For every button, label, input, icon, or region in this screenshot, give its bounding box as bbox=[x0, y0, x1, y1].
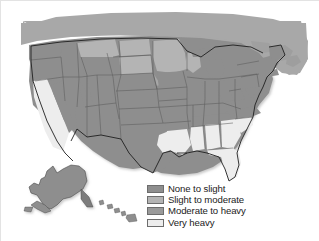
legend-label-moderate-to-heavy: Moderate to heavy bbox=[168, 206, 246, 216]
legend-item-slight-to-moderate[interactable]: Slight to moderate bbox=[147, 194, 271, 205]
legend-label-none-to-slight: None to slight bbox=[168, 184, 225, 194]
figure-container: None to slight Slight to moderate Modera… bbox=[0, 0, 319, 241]
legend-swatch-moderate-to-heavy bbox=[147, 207, 164, 215]
legend-item-very-heavy[interactable]: Very heavy bbox=[147, 217, 271, 228]
legend-swatch-none-to-slight bbox=[147, 185, 164, 193]
legend-swatch-slight-to-moderate bbox=[147, 196, 164, 204]
legend-label-slight-to-moderate: Slight to moderate bbox=[168, 195, 244, 205]
legend-item-none-to-slight[interactable]: None to slight bbox=[147, 183, 271, 194]
map-legend: None to slight Slight to moderate Modera… bbox=[147, 183, 271, 229]
legend-label-very-heavy: Very heavy bbox=[168, 218, 214, 228]
legend-item-moderate-to-heavy[interactable]: Moderate to heavy bbox=[147, 206, 271, 217]
legend-swatch-very-heavy bbox=[147, 219, 164, 227]
